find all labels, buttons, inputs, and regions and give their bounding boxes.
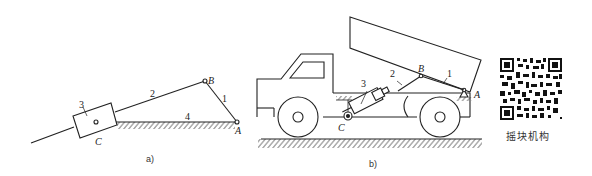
cylinder-mount [342,107,351,112]
ground-hatch-b [258,139,482,148]
rear-wheel [420,97,460,137]
figure-a [31,79,239,143]
ground-hatch-a [117,122,235,129]
joint-A-a [235,120,239,124]
label-joint-B-b: B [418,64,424,74]
label-link-4-a: 4 [185,112,190,122]
link-1-a [205,81,237,122]
label-link-3-a: 3 [79,100,84,110]
link-2-b [398,76,421,91]
label-link-1-b: 1 [447,69,452,79]
joint-B-b [419,74,423,78]
label-joint-A-b: A [474,90,480,100]
figure-b [257,17,482,148]
joint-C-b [347,115,350,118]
caption-a: a) [146,154,154,164]
qr-caption: 摇块机构 [506,128,550,143]
label-link-1-a: 1 [222,94,227,104]
link-2-tail-a [31,127,74,143]
qr-code [500,58,562,120]
diagram-canvas [0,0,592,176]
label-link-3-b: 3 [361,79,366,89]
label-joint-C-b: C [338,123,345,133]
link-2-a [115,81,205,112]
label-joint-A-a: A [235,126,241,136]
label-joint-B-a: B [208,76,214,86]
caption-b: b) [369,159,377,169]
label-joint-C-a: C [95,137,102,147]
joint-C-a [94,120,98,124]
cab-window [290,62,324,78]
dump-bed [350,17,481,92]
label-link-2-b: 2 [390,69,395,79]
fuel-tank-arc [404,96,408,117]
leader-2-b [397,81,402,85]
pivot-C-hatch [336,96,352,100]
joint-B-a [203,79,207,83]
front-wheel [278,97,318,137]
pivot-A-hatch [456,97,472,101]
label-link-2-a: 2 [150,89,155,99]
